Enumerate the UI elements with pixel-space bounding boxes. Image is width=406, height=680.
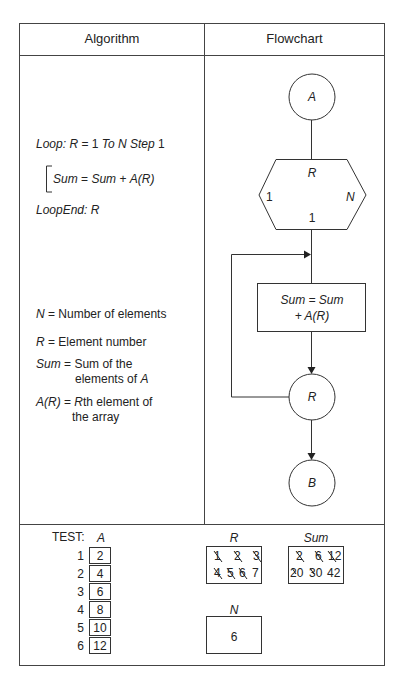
array-cell: 2 [89, 547, 111, 564]
array-cell: 4 [89, 565, 111, 582]
arrow-icon [308, 453, 316, 460]
flowchart-shapes [232, 74, 367, 506]
process-line-2: + A(R) [258, 309, 366, 323]
r-value-crossed: 4 [214, 566, 221, 580]
loop-statement: Loop: R = 1 To N Step 1 [36, 137, 165, 151]
r-value-crossed: 3 [253, 549, 260, 563]
loop-end-connector-label: R [302, 390, 322, 404]
loop-body-statement: Sum = Sum + A(R) [53, 172, 154, 186]
test-label: TEST: [52, 530, 85, 544]
n-value: 6 [206, 630, 262, 644]
r-value-final: 7 [252, 566, 259, 580]
array-index: 1 [70, 549, 84, 563]
arrow-icon [308, 367, 316, 374]
array-index: 5 [70, 621, 84, 635]
array-index: 4 [70, 603, 84, 617]
sum-value-crossed: 20 [290, 566, 303, 580]
sum-value-crossed: 30 [309, 566, 322, 580]
loop-end-value: N [346, 190, 355, 204]
definition-sum: Sum = Sum of the [36, 357, 132, 371]
sum-value-crossed: 2 [296, 549, 303, 563]
definition-ar: A(R) = Rth element of [36, 395, 152, 409]
loop-start-value: 1 [266, 190, 273, 204]
definition-r: R = Element number [36, 335, 146, 349]
r-value-crossed: 5 [227, 566, 234, 580]
loop-end-statement: LoopEnd: R [36, 203, 99, 217]
column-header-algorithm: Algorithm [20, 31, 204, 46]
sum-value-crossed: 12 [328, 549, 341, 563]
sum-value-final: 42 [327, 566, 340, 580]
loop-step-value: 1 [302, 211, 322, 225]
r-value-crossed: 6 [239, 566, 246, 580]
arrowheads [304, 251, 316, 461]
array-index: 3 [70, 585, 84, 599]
array-cell: 8 [89, 601, 111, 618]
r-box-title: R [206, 531, 262, 545]
process-box-shape [258, 284, 366, 332]
definition-ar-cont: the array [72, 410, 119, 424]
n-box-title: N [206, 603, 262, 617]
start-connector-label: A [302, 90, 322, 104]
definition-sum-cont: elements of A [75, 372, 148, 386]
process-line-1: Sum = Sum [258, 293, 366, 307]
r-value-crossed: 2 [234, 549, 241, 563]
array-cell: 12 [89, 637, 111, 654]
array-name: A [97, 531, 105, 545]
sum-value-crossed: 6 [315, 549, 322, 563]
definition-n: N = Number of elements [36, 307, 166, 321]
arrow-icon [304, 251, 311, 259]
end-connector-label: B [302, 476, 322, 490]
array-index: 2 [70, 567, 84, 581]
loop-var-label: R [302, 166, 322, 180]
r-value-crossed: 1 [214, 549, 221, 563]
array-index: 6 [70, 639, 84, 653]
array-cell: 6 [89, 583, 111, 600]
sum-box-title: Sum [288, 531, 344, 545]
array-cell: 10 [89, 619, 111, 636]
column-header-flowchart: Flowchart [205, 31, 384, 46]
loop-body-bracket [47, 166, 53, 192]
